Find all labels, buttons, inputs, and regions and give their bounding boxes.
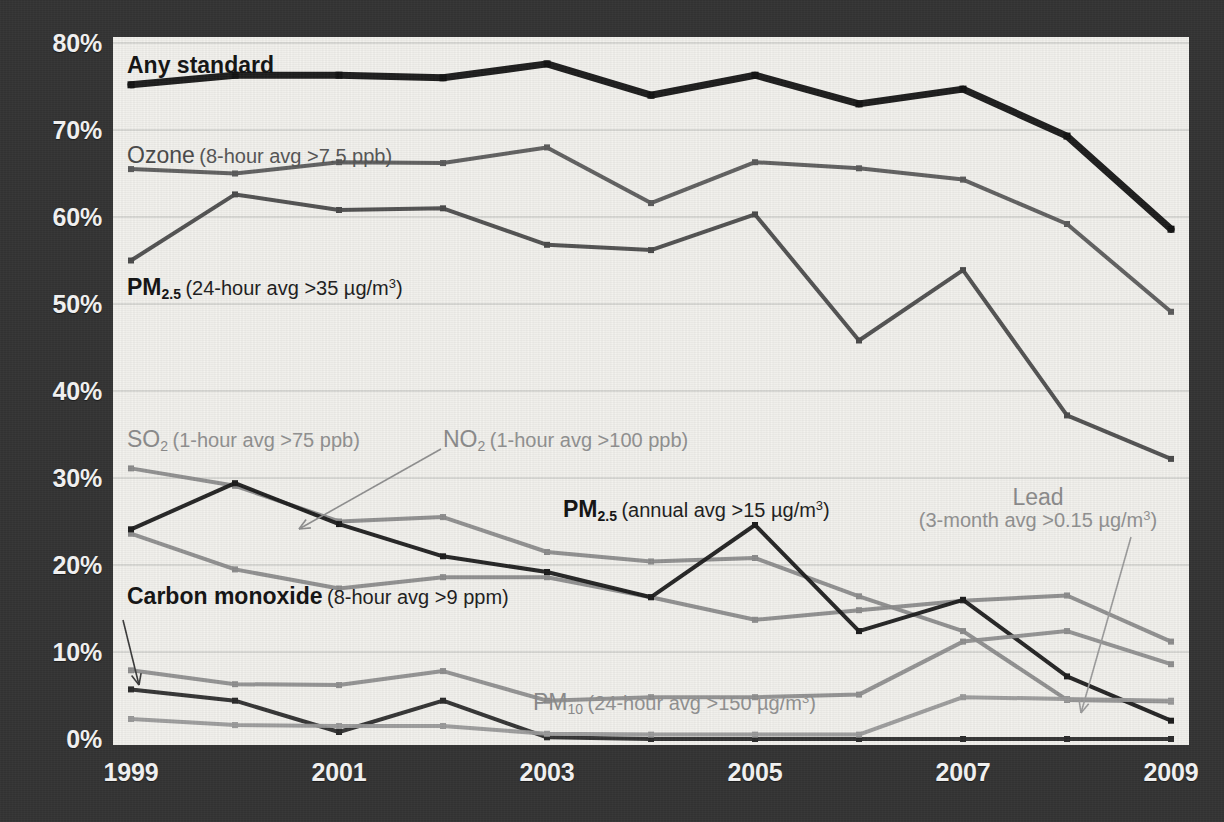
x-axis-tick-2007: 2007 — [936, 758, 991, 787]
x-axis-tick-2009: 2009 — [1144, 758, 1199, 787]
y-axis-tick-50: 50% — [6, 290, 102, 319]
x-axis-tick-2003: 2003 — [520, 758, 575, 787]
y-axis-tick-30: 30% — [6, 464, 102, 493]
x-axis-tick-1999: 1999 — [104, 758, 159, 787]
x-axis-tick-2001: 2001 — [312, 758, 367, 787]
y-axis-tick-0: 0% — [6, 725, 102, 754]
y-axis-tick-70: 70% — [6, 116, 102, 145]
y-axis-tick-40: 40% — [6, 377, 102, 406]
axis-labels: 0%10%20%30%40%50%60%70%80%19992001200320… — [0, 0, 1224, 822]
x-axis-tick-2005: 2005 — [728, 758, 783, 787]
y-axis-tick-20: 20% — [6, 551, 102, 580]
chart-figure: Any standard Ozone (8-hour avg >7.5 ppb)… — [0, 0, 1224, 822]
y-axis-tick-10: 10% — [6, 638, 102, 667]
y-axis-tick-60: 60% — [6, 203, 102, 232]
y-axis-tick-80: 80% — [6, 29, 102, 58]
